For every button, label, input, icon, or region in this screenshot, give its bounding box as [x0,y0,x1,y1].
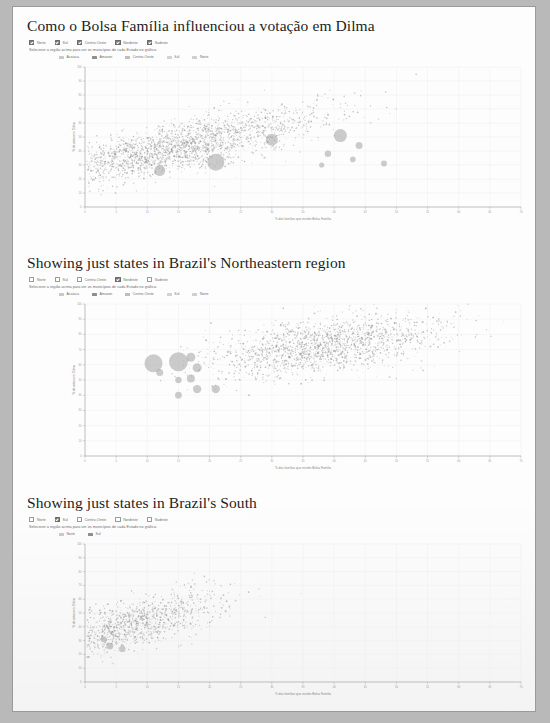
capital-bubble[interactable] [356,142,363,149]
checkbox-sul[interactable]: Sul [55,517,68,522]
checkbox-norte[interactable]: Norte [29,517,46,522]
capital-bubble[interactable] [381,161,387,167]
scatter-plot-1[interactable]: 0510152025303540455055606570010203040506… [13,59,536,229]
data-point [291,356,292,357]
checkbox-sudeste[interactable]: Sudeste [147,277,168,282]
data-point [273,129,275,131]
data-point [227,129,229,131]
capital-bubble[interactable] [175,377,181,383]
data-point [185,161,186,162]
data-point [419,317,420,318]
data-point [486,329,487,330]
data-point [308,365,310,367]
data-point [267,117,268,118]
capital-bubble[interactable] [187,375,195,383]
capital-bubble[interactable] [193,364,202,373]
data-point [286,372,287,373]
y-tick-label: 0 [80,680,82,684]
capital-bubble[interactable] [169,353,188,372]
data-point [112,663,113,664]
data-point [181,130,182,131]
data-point [408,334,409,335]
data-point [94,156,95,157]
data-point [316,362,317,363]
checkbox-norte[interactable]: Norte [29,277,46,282]
capital-bubble[interactable] [193,385,201,393]
capital-bubble[interactable] [350,157,356,163]
data-point [249,350,250,351]
data-point [245,126,247,128]
data-point [99,637,100,638]
capital-bubble[interactable] [156,369,163,376]
data-point [415,74,416,75]
capital-bubble[interactable] [186,353,195,362]
data-point [162,619,164,621]
scatter-plot-3[interactable]: 0510152025303540455055606570010203040506… [13,536,536,704]
checkbox-centro-oeste[interactable]: Centro-Oeste [77,517,106,522]
data-point [116,175,117,176]
data-point [174,145,175,146]
data-point [177,138,178,139]
data-point [206,128,208,130]
capital-bubble[interactable] [175,392,182,399]
data-point [328,352,329,353]
checkbox-nordeste[interactable]: Nordeste [115,277,137,282]
capital-bubble[interactable] [119,646,125,652]
data-point [308,318,310,320]
data-point [200,124,202,126]
data-point [195,137,196,138]
data-point [381,315,382,316]
data-point [166,615,167,616]
data-point [115,640,116,641]
checkbox-nordeste[interactable]: Nordeste [115,40,137,45]
data-point [366,352,368,354]
data-point [360,96,361,97]
capital-bubble[interactable] [319,163,324,168]
data-point [171,123,173,125]
data-point [214,135,216,137]
capital-bubble[interactable] [334,129,347,142]
data-point [175,617,177,619]
capital-bubble[interactable] [107,643,114,650]
data-point [431,329,432,330]
checkbox-sul[interactable]: Sul [55,40,68,45]
data-point [180,151,181,152]
data-point [376,308,377,309]
capital-bubble[interactable] [266,134,278,146]
data-point [170,171,171,172]
data-point [215,122,217,124]
data-point [212,363,214,365]
data-point [255,151,256,152]
data-point [177,148,179,150]
data-point [218,130,219,131]
data-point [145,626,146,627]
capital-bubble[interactable] [207,154,224,171]
capital-bubble[interactable] [154,165,165,176]
data-point [301,357,303,359]
capital-bubble[interactable] [325,151,331,157]
checkbox-nordeste[interactable]: Nordeste [115,517,137,522]
data-point [453,316,454,317]
checkbox-centro-oeste[interactable]: Centro-Oeste [77,40,106,45]
data-point [283,336,284,337]
checkbox-sul[interactable]: Sul [55,277,68,282]
data-point [208,343,209,344]
capital-bubble[interactable] [212,385,220,393]
checkbox-sudeste[interactable]: Sudeste [147,517,168,522]
data-point [162,153,163,154]
data-point [138,164,139,165]
checkbox-sudeste[interactable]: Sudeste [147,40,168,45]
data-point [256,144,257,145]
data-point [200,151,201,152]
data-point [94,154,96,156]
scatter-plot-2[interactable]: 0510152025303540455055606570010203040506… [13,296,536,478]
data-point [279,141,280,142]
checkbox-box-icon [55,517,60,522]
capital-bubble[interactable] [101,637,107,643]
x-tick-label: 5 [115,685,117,689]
checkbox-norte[interactable]: Norte [29,40,46,45]
data-point [414,330,415,331]
checkbox-centro-oeste[interactable]: Centro-Oeste [77,277,106,282]
data-point [137,168,138,169]
data-point [235,131,236,132]
